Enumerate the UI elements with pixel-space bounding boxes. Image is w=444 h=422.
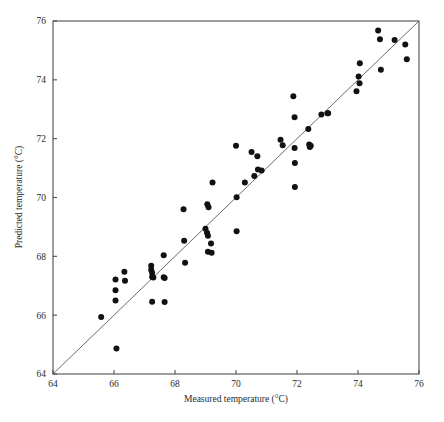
- data-point: [280, 142, 286, 148]
- scatter-plot-figure: 64666870727476 64666870727476 Measured t…: [0, 0, 444, 422]
- data-point: [404, 56, 410, 62]
- data-point: [392, 37, 398, 43]
- data-point: [375, 27, 381, 33]
- data-point: [113, 297, 119, 303]
- data-point: [251, 173, 257, 179]
- data-point: [210, 180, 216, 186]
- data-point: [113, 287, 119, 293]
- y-tick-label: 72: [37, 134, 47, 144]
- data-point: [308, 143, 314, 149]
- data-point: [234, 228, 240, 234]
- data-point: [292, 145, 298, 151]
- data-point: [357, 60, 363, 66]
- data-point: [290, 93, 296, 99]
- x-tick-label: 66: [109, 379, 119, 389]
- x-tick-label: 68: [170, 379, 180, 389]
- data-point: [353, 88, 359, 94]
- data-point: [113, 277, 119, 283]
- data-point: [249, 149, 255, 155]
- data-point: [182, 260, 188, 266]
- x-tick-label: 72: [292, 379, 302, 389]
- x-tick-label: 70: [231, 379, 241, 389]
- data-point-group: [98, 27, 410, 351]
- data-point: [161, 252, 167, 258]
- data-point: [357, 80, 363, 86]
- data-point: [122, 278, 128, 284]
- y-tick-label: 66: [37, 311, 47, 321]
- data-point: [325, 110, 331, 116]
- data-point: [356, 74, 362, 80]
- y-tick-label: 74: [37, 75, 47, 85]
- data-point: [254, 153, 260, 159]
- data-point: [234, 194, 240, 200]
- data-point: [162, 275, 168, 281]
- y-tick-label: 70: [37, 193, 47, 203]
- data-point: [278, 137, 284, 143]
- data-point: [149, 299, 155, 305]
- data-point: [208, 240, 214, 246]
- data-point: [150, 275, 156, 281]
- data-point: [121, 269, 127, 275]
- x-tick-label: 74: [353, 379, 363, 389]
- data-point: [318, 112, 324, 118]
- x-tick-label: 76: [414, 379, 424, 389]
- data-point: [181, 238, 187, 244]
- x-tick-label: 64: [48, 379, 58, 389]
- data-point: [242, 180, 248, 186]
- y-axis-ticks: 64666870727476: [37, 16, 58, 379]
- data-point: [205, 233, 211, 239]
- y-tick-label: 64: [37, 369, 47, 379]
- data-point: [206, 204, 212, 210]
- data-point: [292, 160, 298, 166]
- data-point: [181, 206, 187, 212]
- data-point: [292, 114, 298, 120]
- data-point: [259, 167, 265, 173]
- data-point: [378, 67, 384, 73]
- data-point: [113, 345, 119, 351]
- data-point: [305, 126, 311, 132]
- x-axis-label: Measured temperature (°C): [184, 394, 288, 405]
- x-axis-ticks: 64666870727476: [48, 370, 424, 389]
- y-tick-label: 76: [37, 16, 47, 26]
- data-point: [162, 299, 168, 305]
- data-point: [292, 184, 298, 190]
- data-point: [209, 250, 215, 256]
- data-point: [377, 36, 383, 42]
- data-point: [402, 42, 408, 48]
- data-point: [98, 314, 104, 320]
- data-point: [233, 143, 239, 149]
- plot-canvas: 64666870727476 64666870727476 Measured t…: [0, 0, 444, 422]
- y-axis-label: Predicted temperature (°C): [14, 146, 25, 248]
- y-tick-label: 68: [37, 252, 47, 262]
